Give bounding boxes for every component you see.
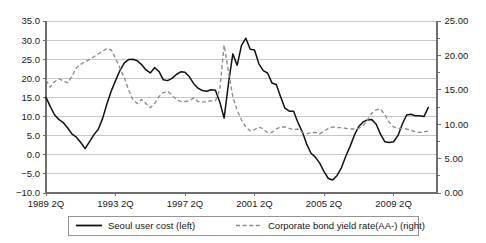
right-axis-tick-label: 15.00 [445,84,469,95]
line-chart: 35.030.025.020.015.010.05.00.0−5.0−10.0 … [0,0,486,243]
left-axis-tick-label: 15.0 [22,92,41,103]
x-axis-tick-label: 2009 2Q [375,198,411,209]
left-axis-tick-label: 5.0 [27,130,40,141]
x-axis-tick-label: 2001 2Q [236,198,272,209]
right-axis-tick-label: 5.00 [445,153,464,164]
left-axis-tick-label: −5.0 [21,168,40,179]
x-axis-tick-label: 1989 2Q [28,198,64,209]
left-axis-tick-label: 25.0 [22,54,41,65]
left-axis-tick-label: 35.0 [22,15,41,26]
left-axis-tick-label: 0.0 [27,149,40,160]
legend-label: Corporate bond yield rate(AA-) (right) [268,220,425,231]
x-axis-ticks: 1989 2Q1993 2Q1997 2Q2001 2Q2005 2Q2009 … [28,193,412,209]
right-axis-tick-label: 10.00 [445,119,469,130]
x-axis-tick-label: 1997 2Q [167,198,203,209]
legend: Seoul user cost (left)Corporate bond yie… [68,216,425,235]
legend-label: Seoul user cost (left) [108,220,195,231]
left-axis-tick-label: 30.0 [22,35,41,46]
right-axis-tick-label: 0.00 [445,187,464,198]
chart-container: 35.030.025.020.015.010.05.00.0−5.0−10.0 … [0,0,486,243]
series-line-corporate-bond-yield [46,45,428,134]
right-axis-tick-label: 20.00 [445,50,469,61]
x-axis-tick-label: 2005 2Q [306,198,342,209]
left-axis-tick-label: 10.0 [22,111,41,122]
left-axis-ticks: 35.030.025.020.015.010.05.00.0−5.0−10.0 [16,15,46,198]
x-axis-tick-label: 1993 2Q [97,198,133,209]
right-axis-ticks: 25.0020.0015.0010.005.000.00 [437,15,468,198]
left-axis-tick-label: 20.0 [22,73,41,84]
right-axis-tick-label: 25.00 [445,15,469,26]
